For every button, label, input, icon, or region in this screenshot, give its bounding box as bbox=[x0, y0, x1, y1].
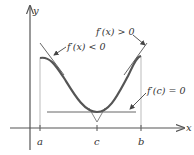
function-curve bbox=[40, 56, 141, 112]
x-axis-label: x bbox=[186, 122, 192, 133]
annotation-decreasing: f′(x) < 0 bbox=[66, 41, 106, 52]
annotation-increasing: f′(x) > 0 bbox=[95, 26, 135, 37]
tick-label-c: c bbox=[94, 136, 100, 147]
tick-label-b: b bbox=[138, 136, 144, 147]
tick-label-a: a bbox=[37, 136, 43, 147]
pointer-decreasing bbox=[54, 47, 66, 55]
y-axis-label: y bbox=[32, 5, 39, 16]
pointer-critical bbox=[130, 93, 146, 109]
annotation-critical: f′(c) = 0 bbox=[146, 85, 185, 96]
pointer-increasing bbox=[133, 35, 145, 45]
tangent-decreasing bbox=[40, 43, 64, 75]
mean-value-diagram: y x a c b f′(x) < 0 f′(x) > 0 f′(c) = 0 bbox=[0, 0, 194, 155]
